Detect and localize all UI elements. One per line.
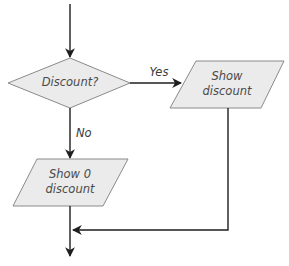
flowchart-graphics — [0, 0, 289, 266]
show-discount-line-1: Show — [187, 69, 267, 84]
show-zero-line-2: discount — [30, 182, 110, 197]
show-discount-line-2: discount — [187, 84, 267, 99]
show-zero-line-1: Show 0 — [30, 167, 110, 182]
decision-label: Discount? — [30, 75, 110, 90]
no-edge-label: No — [76, 126, 98, 141]
show-discount-label: Show discount — [187, 69, 267, 99]
flowchart-canvas: Discount? Yes Show discount No Show 0 di… — [0, 0, 289, 266]
show-zero-discount-label: Show 0 discount — [30, 167, 110, 197]
yes-edge-label: Yes — [146, 65, 172, 80]
